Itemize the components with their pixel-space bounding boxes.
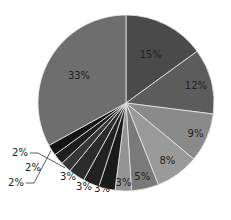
slice-label: 3% bbox=[116, 177, 132, 188]
pie-slices bbox=[38, 15, 214, 191]
slice-label: 33% bbox=[68, 70, 90, 81]
slice-label: 2% bbox=[25, 162, 41, 173]
slice-label: 8% bbox=[159, 155, 175, 166]
slice-label: 15% bbox=[140, 49, 162, 60]
slice-label: 3% bbox=[94, 183, 110, 194]
slice-label: 3% bbox=[60, 171, 76, 182]
slice-label: 12% bbox=[185, 80, 207, 91]
pie-chart: 15%12%9%8%5%3%3%3%3%2%2%2%33% bbox=[0, 0, 231, 220]
slice-label: 5% bbox=[134, 171, 150, 182]
slice-label: 9% bbox=[188, 128, 204, 139]
slice-label: 3% bbox=[76, 181, 92, 192]
slice-label: 2% bbox=[8, 177, 24, 188]
slice-label: 2% bbox=[12, 147, 28, 158]
